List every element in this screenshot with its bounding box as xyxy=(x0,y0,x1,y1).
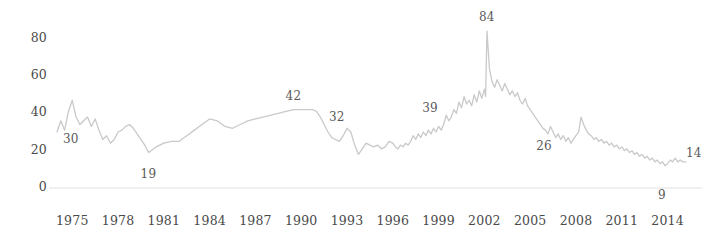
annotation-32: 32 xyxy=(329,110,345,124)
y-tick-60: 60 xyxy=(31,67,47,82)
y-tick-40: 40 xyxy=(31,104,47,119)
annotation-14: 14 xyxy=(686,146,702,160)
annotation-9: 9 xyxy=(658,188,666,202)
x-tick-2014: 2014 xyxy=(638,213,698,228)
data-series-line xyxy=(57,31,686,165)
line-chart: 020406080 197519781981198419871990199319… xyxy=(0,0,705,250)
annotation-84: 84 xyxy=(479,10,495,24)
y-tick-80: 80 xyxy=(31,30,47,45)
y-tick-0: 0 xyxy=(39,179,47,194)
annotation-39: 39 xyxy=(422,101,438,115)
annotation-19: 19 xyxy=(141,167,157,181)
y-tick-20: 20 xyxy=(31,142,47,157)
annotation-42: 42 xyxy=(286,89,302,103)
annotation-30: 30 xyxy=(63,132,79,146)
annotation-26: 26 xyxy=(536,139,552,153)
